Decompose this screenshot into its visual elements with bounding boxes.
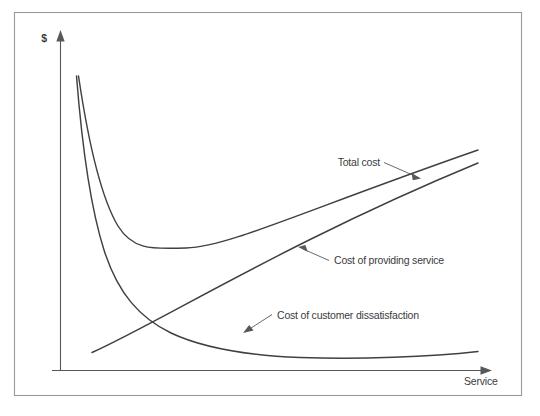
x-axis [52, 366, 492, 374]
customer-dissatisfaction-leader-arrow-icon [243, 325, 254, 333]
figure-border [15, 13, 522, 396]
total-cost-leader-arrow-icon [412, 173, 422, 180]
y-axis-arrow-icon [56, 30, 64, 42]
cost-of-providing-service-label: Cost of providing service [334, 254, 444, 266]
y-axis [56, 30, 64, 371]
chart-canvas: $ Service Total cost Cost of providing s… [0, 0, 540, 416]
x-axis-title: Service [464, 375, 498, 387]
x-axis-arrow-icon [481, 366, 493, 374]
series-total-cost [79, 76, 479, 248]
chart-figure: $ Service Total cost Cost of providing s… [0, 0, 540, 416]
total-cost-label: Total cost [338, 156, 381, 168]
annotation-cost-of-providing-service: Cost of providing service [298, 245, 444, 266]
cost-of-customer-dissatisfaction-label: Cost of customer dissatisfaction [277, 309, 419, 321]
y-axis-title: $ [41, 32, 47, 44]
annotation-total-cost: Total cost [338, 156, 421, 180]
providing-service-leader-arrow-icon [298, 245, 308, 252]
annotation-cost-of-customer-dissatisfaction: Cost of customer dissatisfaction [243, 309, 419, 333]
